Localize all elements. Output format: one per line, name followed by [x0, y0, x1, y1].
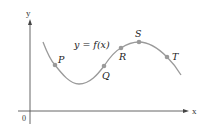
x-axis-label: x [192, 106, 197, 116]
point-p-label: P [57, 54, 65, 65]
point-r: R [118, 46, 126, 62]
point-t: T [165, 51, 179, 62]
point-s-marker [137, 40, 142, 45]
point-r-label: R [118, 51, 126, 62]
function-label: y = f(x) [73, 39, 110, 50]
point-s-label: S [135, 28, 142, 39]
y-axis-label: y [26, 8, 31, 18]
point-r-marker [119, 46, 124, 51]
function-graph: y x 0 y = f(x) P Q R S T [0, 0, 205, 130]
x-axis-arrow-icon [183, 109, 189, 113]
origin-label: 0 [22, 114, 26, 123]
point-q: Q [102, 64, 110, 81]
point-t-marker [165, 55, 170, 60]
point-p-marker [53, 63, 58, 68]
point-q-marker [102, 64, 107, 69]
y-axis-arrow-icon [28, 19, 32, 25]
point-q-label: Q [102, 70, 110, 81]
point-t-label: T [172, 51, 179, 62]
point-p: P [53, 54, 65, 67]
